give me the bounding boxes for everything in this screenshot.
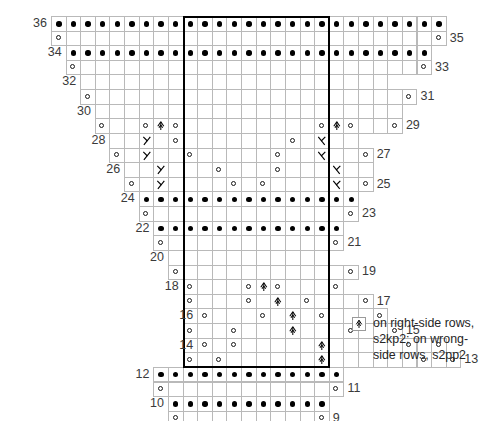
cell-knit [285, 118, 301, 134]
cell-purl [153, 45, 169, 61]
row-number-36: 36 [33, 17, 47, 30]
right-leaning-decrease-icon [315, 149, 329, 163]
cell-centered-double-decrease [329, 118, 345, 134]
cell-knit [343, 133, 359, 149]
purl-icon [96, 46, 110, 60]
cell-centered-double-decrease [314, 338, 330, 354]
purl-icon [184, 222, 198, 236]
cell-knit [373, 74, 389, 90]
purl-icon [198, 368, 212, 382]
purl-icon [286, 397, 300, 411]
cell-yarn-over [270, 148, 286, 164]
cell-knit [226, 148, 242, 164]
cell-knit [139, 162, 155, 178]
cell-knit [124, 104, 140, 120]
cell-knit [80, 31, 96, 47]
cell-purl [329, 45, 345, 61]
yarn-over-icon [359, 178, 373, 192]
cell-purl [241, 45, 257, 61]
cell-knit [197, 294, 213, 310]
cell-knit [270, 60, 286, 76]
cell-yarn-over [329, 235, 345, 251]
cell-knit [285, 338, 301, 354]
cell-knit [139, 177, 155, 193]
cell-purl [153, 367, 169, 383]
centered-double-decrease-icon [330, 119, 344, 133]
cell-knit [197, 118, 213, 134]
purl-icon [271, 17, 285, 31]
purl-icon [184, 46, 198, 60]
cell-knit [168, 206, 184, 222]
cell-purl [256, 221, 272, 237]
cell-knit [270, 118, 286, 134]
cell-knit [270, 308, 286, 324]
yarn-over-icon [257, 178, 271, 192]
purl-icon [169, 17, 183, 31]
cell-knit [109, 104, 125, 120]
cell-knit [124, 148, 140, 164]
purl-icon [184, 17, 198, 31]
cell-knit [329, 265, 345, 281]
cell-purl [197, 16, 213, 32]
purl-icon [169, 192, 183, 206]
cell-knit [168, 74, 184, 90]
purl-icon [242, 192, 256, 206]
cell-purl [109, 45, 125, 61]
cell-knit [153, 31, 169, 47]
row-number-34: 34 [48, 46, 62, 59]
cell-knit [387, 31, 403, 47]
purl-icon [271, 222, 285, 236]
cell-purl [153, 221, 169, 237]
cell-purl [95, 45, 111, 61]
cell-yarn-over [226, 323, 242, 339]
cell-knit [285, 177, 301, 193]
yarn-over-icon [81, 90, 95, 104]
cell-purl [183, 367, 199, 383]
cell-knit [139, 31, 155, 47]
cell-knit [314, 89, 330, 105]
cell-purl [270, 367, 286, 383]
row-number-28: 28 [92, 134, 106, 147]
cell-knit [197, 31, 213, 47]
cell-purl [241, 367, 257, 383]
cell-centered-double-decrease [314, 352, 330, 368]
cell-knit [358, 31, 374, 47]
yarn-over-icon [110, 149, 124, 163]
purl-icon [315, 46, 329, 60]
cell-purl [343, 45, 359, 61]
row-number-26: 26 [106, 163, 120, 176]
cell-yarn-over [270, 162, 286, 178]
cell-knit [226, 74, 242, 90]
purl-icon [227, 46, 241, 60]
cell-knit [343, 89, 359, 105]
cell-knit [80, 60, 96, 76]
cell-knit [226, 265, 242, 281]
cell-purl [270, 221, 286, 237]
cell-knit [256, 294, 272, 310]
cell-knit [212, 148, 228, 164]
centered-double-decrease-icon [286, 309, 300, 323]
cell-knit [183, 104, 199, 120]
cell-purl [241, 191, 257, 207]
yarn-over-icon [198, 309, 212, 323]
purl-icon [242, 17, 256, 31]
cell-knit [197, 235, 213, 251]
cell-yarn-over [343, 206, 359, 222]
purl-icon [403, 46, 417, 60]
cell-knit [212, 294, 228, 310]
purl-icon [271, 192, 285, 206]
purl-icon [301, 192, 315, 206]
yarn-over-icon [67, 61, 81, 75]
yarn-over-icon [184, 353, 198, 367]
cell-knit [300, 162, 316, 178]
cell-yarn-over [256, 177, 272, 193]
cell-yarn-over [183, 148, 199, 164]
cell-purl [256, 367, 272, 383]
cell-yarn-over [241, 279, 257, 295]
cell-knit [314, 60, 330, 76]
cell-knit [197, 148, 213, 164]
cell-knit [168, 89, 184, 105]
cell-knit [300, 133, 316, 149]
cell-purl [285, 45, 301, 61]
cell-purl [373, 45, 389, 61]
